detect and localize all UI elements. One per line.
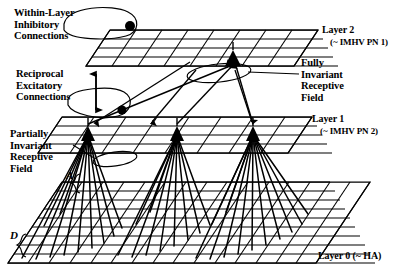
label-fully-invariant-receptive-field: Fully Invariant Receptive Field [301, 57, 344, 103]
layer1-neuron-2 [170, 118, 184, 141]
label-marker-a: A [66, 170, 73, 182]
feedback-descending-left [96, 62, 196, 122]
feedback-layer2-to-layer1 [235, 70, 252, 122]
leader-fully-invariant [248, 72, 299, 74]
label-partially-invariant-receptive-field: Partially Invariant Receptive Field [10, 128, 53, 174]
layer1-neuron-3 [246, 118, 260, 141]
partially-invariant-field-ellipse [92, 149, 138, 169]
within-layer-inhibitory-loop [64, 8, 137, 39]
layer1-inhibitory-loop [68, 88, 130, 117]
label-layer-2: Layer 2 [322, 24, 354, 36]
figure-neural-layer-diagram: Within-Layer Inhibitory Connections Reci… [0, 0, 411, 276]
fully-invariant-field-ellipse [186, 61, 252, 86]
label-within-layer-inhibitory-connections: Within-Layer Inhibitory Connections [14, 7, 74, 42]
label-reciprocal-excitatory-connections: Reciprocal Excitatory Connections [16, 68, 70, 103]
inhibitory-terminal-layer1 [117, 105, 126, 114]
label-layer-0: Layer 0 (~ HA) [318, 250, 381, 262]
inhibitory-terminal-layer2 [125, 21, 135, 31]
label-layer-1: Layer 1 [312, 113, 344, 125]
label-layer-1-subtitle: (~ IMHV PN 2) [320, 126, 378, 138]
layer2-neuron-1 [225, 42, 241, 66]
label-layer-2-subtitle: (~ IMHV PN 1) [330, 37, 388, 49]
label-marker-d: D [10, 230, 18, 242]
